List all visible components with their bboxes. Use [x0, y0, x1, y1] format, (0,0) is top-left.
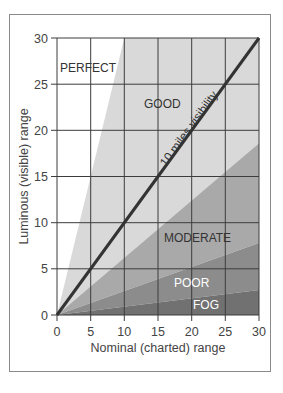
label-moderate: MODERATE — [164, 231, 231, 245]
svg-text:25: 25 — [34, 78, 48, 92]
label-good: GOOD — [144, 97, 181, 111]
visibility-chart: 30 25 20 15 10 5 0 0 5 10 15 20 25 30 No… — [0, 0, 283, 393]
svg-text:15: 15 — [151, 325, 165, 339]
svg-text:0: 0 — [41, 309, 48, 323]
x-axis-label: Nominal (charted) range — [91, 341, 226, 355]
svg-text:30: 30 — [34, 32, 48, 46]
y-axis-label: Luminous (visible) range — [17, 108, 31, 244]
svg-text:5: 5 — [87, 325, 94, 339]
svg-text:5: 5 — [41, 262, 48, 276]
svg-text:10: 10 — [34, 216, 48, 230]
label-poor: POOR — [174, 276, 210, 290]
svg-text:30: 30 — [252, 325, 266, 339]
y-tick-labels: 30 25 20 15 10 5 0 — [34, 32, 48, 323]
svg-text:25: 25 — [218, 325, 232, 339]
svg-text:20: 20 — [34, 124, 48, 138]
x-tick-labels: 0 5 10 15 20 25 30 — [54, 325, 266, 339]
label-perfect: PERFECT — [60, 61, 117, 75]
svg-text:20: 20 — [185, 325, 199, 339]
svg-text:15: 15 — [34, 170, 48, 184]
svg-text:10: 10 — [117, 325, 131, 339]
svg-text:0: 0 — [54, 325, 61, 339]
label-fog: FOG — [193, 298, 219, 312]
